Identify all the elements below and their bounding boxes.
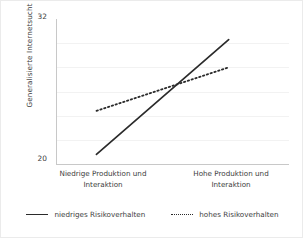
series-layer	[57, 19, 289, 164]
x-axis-category-left-line2: Interaktion	[43, 180, 163, 191]
y-axis-max-tick-label: 32	[27, 12, 47, 21]
plot-area	[57, 19, 289, 164]
legend-label-hohes-risikoverhalten: hohes Risikoverhalten	[199, 210, 278, 219]
interaction-line-chart: Generalisierte Internetsucht 32 20 Niedr…	[0, 0, 303, 238]
y-axis-min-tick-label: 20	[27, 154, 47, 163]
x-axis-category-right: Hohe Produktion und Interaktion	[171, 169, 291, 190]
series-line-niedriges-risikoverhalten	[96, 40, 228, 155]
legend-label-niedriges-risikoverhalten: niedriges Risikoverhalten	[54, 210, 145, 219]
x-axis-category-right-line1: Hohe Produktion und	[171, 169, 291, 180]
solid-line-icon	[26, 214, 48, 215]
chart-legend: niedriges Risikoverhalten hohes Risikove…	[1, 210, 303, 219]
x-axis-category-left: Niedrige Produktion und Interaktion	[43, 169, 163, 190]
x-axis-category-left-line1: Niedrige Produktion und	[43, 169, 163, 180]
dotted-line-icon	[171, 214, 193, 215]
legend-item-niedriges-risikoverhalten: niedriges Risikoverhalten	[26, 210, 145, 219]
x-axis-category-right-line2: Interaktion	[171, 180, 291, 191]
x-axis-line	[56, 164, 289, 165]
series-line-hohes-risikoverhalten	[96, 67, 228, 111]
legend-item-hohes-risikoverhalten: hohes Risikoverhalten	[171, 210, 278, 219]
